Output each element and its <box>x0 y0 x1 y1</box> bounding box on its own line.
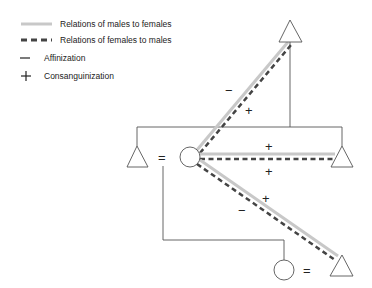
legend: Relations of males to females Relations … <box>20 19 172 81</box>
kinship-connectors <box>137 42 342 260</box>
marriage-equals-ego: = <box>158 150 166 165</box>
brother-triangle-icon <box>331 146 353 167</box>
relation-ego-father <box>197 42 291 153</box>
label-brother-plus-bottom: + <box>265 164 273 179</box>
husband-triangle-icon <box>127 146 148 167</box>
label-father-plus: + <box>245 103 253 118</box>
kinship-diagram: Relations of males to females Relations … <box>0 0 372 288</box>
father-triangle-icon <box>279 20 302 42</box>
label-brother-plus-top: + <box>265 139 273 154</box>
sibling-bar <box>137 127 342 146</box>
descent-line-to-daughter <box>163 166 284 260</box>
legend-label-males-to-females: Relations of males to females <box>60 19 172 29</box>
label-son-in-law-minus: − <box>238 203 246 218</box>
legend-label-females-to-males: Relations of females to males <box>60 35 172 45</box>
label-son-in-law-plus: + <box>262 191 270 206</box>
relation-ego-brother <box>200 154 335 159</box>
legend-label-affinization: Affinization <box>44 53 86 63</box>
marriage-equals-daughter: = <box>303 263 311 278</box>
legend-plus-icon <box>21 71 31 81</box>
ego-circle-icon <box>180 147 200 167</box>
daughter-circle-icon <box>274 260 294 280</box>
label-father-minus: − <box>225 83 233 98</box>
legend-label-consanguinization: Consanguinization <box>44 71 114 81</box>
